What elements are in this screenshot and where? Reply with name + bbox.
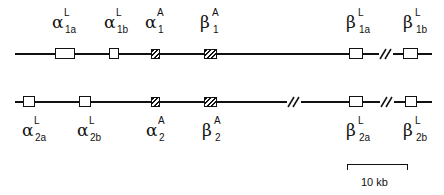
gene-beta-L-2a xyxy=(349,96,363,107)
break-mark-icon xyxy=(379,48,393,60)
break-mark-icon xyxy=(287,96,301,108)
break-mark-icon xyxy=(380,96,394,108)
label-beta-L-1a: β L 1a xyxy=(346,8,386,44)
label-beta-L-2a: β L 2a xyxy=(346,116,386,152)
gene-alpha-A-2 xyxy=(151,97,160,107)
label-alpha-L-2a: α L 2a xyxy=(22,116,62,152)
label-alpha-L-1a: α L 1a xyxy=(52,8,92,44)
label-beta-L-1b: β L 1b xyxy=(403,8,443,44)
gene-beta-A-1 xyxy=(204,49,217,59)
chromosome-line-2 xyxy=(15,101,432,103)
label-beta-A-1: β A 1 xyxy=(200,8,240,44)
gene-alpha-L-2b xyxy=(79,96,91,107)
gene-alpha-A-1 xyxy=(151,49,160,59)
scale-bar-label: 10 kb xyxy=(361,176,388,188)
label-alpha-A-2: α A 2 xyxy=(146,116,186,152)
gene-alpha-L-1a xyxy=(55,48,75,59)
gene-alpha-L-2a xyxy=(23,96,35,107)
chromosome-line-1 xyxy=(15,53,432,55)
label-beta-L-2b: β L 2b xyxy=(403,116,443,152)
label-alpha-L-1b: α L 1b xyxy=(104,8,144,44)
scale-bar xyxy=(347,164,408,170)
label-beta-A-2: β A 2 xyxy=(202,116,242,152)
gene-beta-L-1a xyxy=(349,48,363,59)
label-alpha-A-1: α A 1 xyxy=(145,8,185,44)
gene-alpha-L-1b xyxy=(109,48,119,59)
gene-beta-L-1b xyxy=(403,48,418,59)
gene-beta-L-2b xyxy=(405,96,417,107)
gene-beta-A-2 xyxy=(204,97,217,107)
label-alpha-L-2b: α L 2b xyxy=(77,116,117,152)
